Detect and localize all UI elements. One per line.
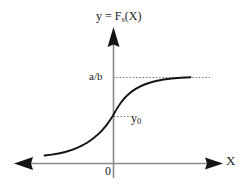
graph-title-label: y = Fs(X) <box>96 10 141 24</box>
y0-label: y0 <box>131 112 141 126</box>
function-graph-figure: y = Fs(X) a/b y0 0 X <box>0 0 241 189</box>
y-axis-arrow-icon <box>108 27 120 47</box>
x-axis-right-arrow-icon <box>205 158 223 170</box>
x-axis-label: X <box>226 154 235 167</box>
y0-subscript: 0 <box>137 116 141 126</box>
x-axis-left-arrow-icon <box>14 157 33 170</box>
title-suffix: (X) <box>125 9 142 23</box>
title-prefix: y = F <box>96 9 121 23</box>
origin-label: 0 <box>105 165 111 177</box>
asymptote-value-label: a/b <box>89 71 102 82</box>
plot-canvas <box>0 0 241 189</box>
